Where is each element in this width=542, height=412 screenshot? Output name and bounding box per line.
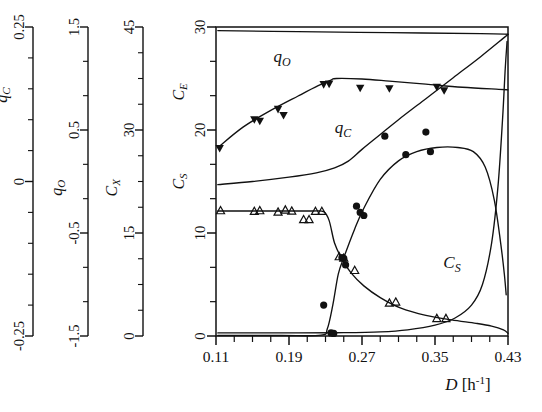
tick-label: 10 — [192, 226, 208, 241]
x-axis-title-units-close: ] — [485, 375, 491, 394]
figure-background — [0, 0, 542, 412]
tick-label: 0.5 — [66, 121, 82, 139]
tick-label: 15 — [121, 226, 137, 241]
figure-root: -0.2500.25qC-1.5-0.50.51.5qO0153045CX 01… — [0, 0, 542, 412]
tick-label: -1.5 — [66, 325, 82, 348]
x-axis-title-var: D — [444, 375, 458, 394]
tick-label: 0.35 — [421, 348, 448, 365]
axis-title-subscript: X — [110, 178, 122, 187]
axis-title-var: q — [0, 95, 11, 103]
tick-label: 20 — [192, 123, 208, 138]
tick-label: 30 — [121, 123, 137, 138]
tick-label: 0.19 — [275, 348, 302, 365]
tick-label: 30 — [192, 20, 208, 35]
tick-label: 0.11 — [203, 348, 230, 365]
marker-CE — [342, 261, 349, 268]
marker-CE — [422, 128, 429, 135]
marker-CE — [427, 148, 434, 155]
marker-CE — [330, 330, 337, 337]
axis-title-subscript: C — [0, 87, 12, 95]
tick-label: 0.27 — [348, 348, 375, 365]
tick-label: -0.25 — [11, 321, 27, 351]
tick-label: 1.5 — [66, 18, 82, 36]
tick-label: 0.43 — [494, 348, 521, 365]
marker-CE — [360, 212, 367, 219]
x-axis-title-exponent: -1 — [476, 374, 485, 386]
tick-label: 0.25 — [11, 14, 27, 39]
tick-label: 0 — [121, 332, 137, 339]
axis-title-var: q — [48, 188, 66, 196]
tick-label: 45 — [121, 20, 137, 35]
axis-title-var: C — [103, 185, 120, 196]
marker-CE — [381, 133, 388, 140]
axis-title-subscript: O — [55, 180, 67, 188]
x-axis-title-units: [h — [462, 375, 477, 394]
marker-CE — [402, 151, 409, 158]
marker-CE — [353, 203, 360, 210]
tick-label: 0 — [192, 332, 208, 339]
tick-label: -0.5 — [66, 222, 82, 245]
marker-CE — [320, 302, 327, 309]
tick-label: 0 — [11, 178, 27, 185]
chart-canvas: -0.2500.25qC-1.5-0.50.51.5qO0153045CX 01… — [0, 0, 542, 412]
